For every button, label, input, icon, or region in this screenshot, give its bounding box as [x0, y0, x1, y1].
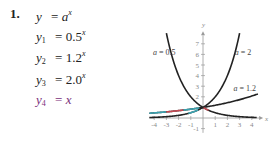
x-tick-label: -3 — [163, 121, 169, 129]
y-tick-label: -1 — [193, 125, 199, 133]
exponential-chart: xy-4-3-2-11234-1234567 a = 0.5a = 2a = 1… — [0, 0, 277, 144]
annotation-value: = 1.2 — [238, 84, 257, 93]
y-tick-label: 6 — [196, 51, 200, 59]
curve-a-0-5 — [166, 33, 256, 117]
x-tick-label: -4 — [151, 121, 157, 129]
highlight-segment — [166, 110, 183, 112]
y-tick-label: 5 — [196, 62, 200, 70]
y-tick-label: 3 — [196, 83, 200, 91]
y-axis-arrow — [201, 31, 205, 35]
annotation-a-2: a = 2 — [235, 48, 252, 57]
curve-a-2 — [149, 33, 239, 117]
annotation-a-1-2: a = 1.2 — [234, 84, 257, 93]
highlight-segment — [188, 110, 198, 113]
highlight-segment — [149, 112, 166, 113]
annotation-value: = 0.5 — [157, 48, 176, 57]
y-tick-label: 7 — [196, 40, 200, 48]
annotation-a-0-5: a = 0.5 — [153, 48, 176, 57]
x-tick-label: 3 — [238, 121, 242, 129]
y-tick-label: 4 — [196, 72, 200, 80]
highlight-segment — [204, 108, 209, 110]
x-tick-label: 4 — [250, 121, 254, 129]
annotation-value: = 2 — [239, 48, 252, 57]
x-tick-label: -2 — [176, 121, 182, 129]
x-axis-label: x — [264, 115, 269, 123]
y-tick-label: 2 — [196, 93, 200, 101]
x-tick-label: 1 — [213, 121, 217, 129]
x-tick-label: 2 — [226, 121, 230, 129]
y-axis-label: y — [201, 21, 206, 29]
x-axis-arrow — [259, 116, 263, 120]
